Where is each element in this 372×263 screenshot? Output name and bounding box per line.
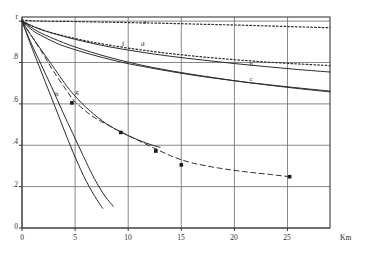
x-tick-label-0: 0 [14, 233, 30, 242]
curve-f [22, 21, 330, 65]
y-tick-label-1: .8 [2, 52, 18, 61]
curve-label-f: f [122, 40, 124, 48]
data-marker-a [180, 163, 184, 167]
y-tick-label-3: .4 [2, 137, 18, 146]
x-axis-unit-label: Km [340, 233, 351, 242]
chart-plot-svg [0, 0, 372, 263]
x-tick-label-3: 15 [173, 233, 189, 242]
curve-d [22, 21, 330, 91]
curve-label-b: b [249, 60, 253, 68]
data-marker-a [288, 175, 292, 179]
curve-label-h: h [55, 90, 59, 98]
y-tick-label-5: 0 [2, 222, 18, 231]
x-tick-label-1: 5 [67, 233, 83, 242]
data-marker-a [70, 101, 74, 105]
curve-label-d: d [141, 40, 145, 48]
curve-label-g: g [75, 88, 79, 96]
chart-figure: r .8 .6 .4 .2 0 0 5 10 15 20 25 Km abcde… [0, 0, 372, 263]
plot-frame [22, 17, 330, 228]
curve-label-a: a [154, 145, 157, 153]
y-tick-label-0: r [2, 12, 18, 21]
x-tick-label-5: 25 [279, 233, 295, 242]
y-tick-label-2: .6 [2, 95, 18, 104]
curve-label-c: c [249, 75, 252, 83]
curve-label-e: e [143, 18, 146, 26]
curve-h [22, 21, 113, 206]
curve-b [22, 21, 330, 72]
x-tick-label-4: 20 [226, 233, 242, 242]
x-tick-label-2: 10 [120, 233, 136, 242]
y-tick-label-4: .2 [2, 180, 18, 189]
curve-g [22, 21, 160, 147]
